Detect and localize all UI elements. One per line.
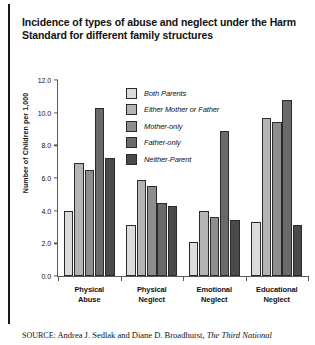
x-axis-category-line: Neglect [181, 295, 247, 305]
legend-swatch-icon [126, 88, 137, 99]
legend-swatch-icon [126, 137, 137, 148]
legend-item: Mother-only [126, 118, 246, 135]
bar [137, 180, 147, 276]
x-axis-category-line: Abuse [56, 295, 122, 305]
y-axis-tick-label: 12.0 [12, 77, 58, 84]
bar [157, 203, 167, 277]
x-axis-category-line: Physical [119, 285, 185, 295]
legend-item-label: Either Mother or Father [144, 105, 219, 114]
bar [74, 163, 84, 276]
legend-item-label: Neither-Parent [144, 155, 191, 164]
x-axis-tick-mark [183, 276, 184, 281]
bar [293, 225, 303, 276]
bar-group [246, 80, 309, 276]
legend-item: Both Parents [126, 85, 246, 102]
bar-group [58, 80, 121, 276]
bar [199, 211, 209, 276]
y-axis-tick-label: 10.0 [12, 109, 58, 116]
figure-left-rule [8, 4, 10, 324]
x-axis-category-line: Emotional [181, 285, 247, 295]
x-axis-category-line: Neglect [244, 295, 310, 305]
legend-swatch-icon [126, 104, 137, 115]
x-axis-tick-mark [246, 276, 247, 281]
y-axis-tick-label: 8.0 [12, 142, 58, 149]
bar [262, 118, 272, 276]
figure-container: Incidence of types of abuse and neglect … [0, 0, 315, 345]
bar [64, 211, 74, 276]
legend-item-label: Mother-only [144, 122, 182, 131]
y-axis-tick-label: 0.0 [12, 273, 58, 280]
source-note: SOURCE: Andrea J. Sedlak and Diane D. Br… [22, 330, 312, 340]
source-text: Andrea J. Sedlak and Diane D. Broadhurst… [57, 330, 204, 340]
bar [147, 186, 157, 276]
legend-item: Either Mother or Father [126, 102, 246, 119]
x-axis-tick-mark [121, 276, 122, 281]
x-axis-category-label: PhysicalAbuse [56, 285, 122, 304]
x-axis-tick-mark [58, 276, 59, 281]
x-axis-category-label: PhysicalNeglect [119, 285, 185, 304]
y-axis-label-wrap: Number of Children per 1,000 [26, 184, 40, 185]
x-axis-category-line: Physical [56, 285, 122, 295]
legend-swatch-icon [126, 154, 137, 165]
bar [168, 206, 178, 276]
bar [272, 122, 282, 276]
legend: Both ParentsEither Mother or FatherMothe… [126, 85, 246, 168]
bar [85, 170, 95, 276]
legend-item: Father-only [126, 135, 246, 152]
page-title: Incidence of types of abuse and neglect … [22, 16, 307, 42]
x-axis-category-line: Educational [244, 285, 310, 295]
x-axis-category-label: EducationalNeglect [244, 285, 310, 304]
source-label: SOURCE: [22, 331, 56, 340]
bar [251, 222, 261, 276]
source-title: The Third National [207, 330, 272, 340]
legend-swatch-icon [126, 121, 137, 132]
y-axis-tick-label: 6.0 [12, 175, 58, 182]
legend-item: Neither-Parent [126, 151, 246, 168]
x-axis-category-line: Neglect [119, 295, 185, 305]
bar [230, 220, 240, 276]
bar [282, 100, 292, 276]
x-axis-tick-mark [308, 276, 309, 281]
y-axis-tick-label: 2.0 [12, 240, 58, 247]
bar [126, 225, 136, 276]
bar [210, 217, 220, 276]
bar [189, 242, 199, 276]
legend-item-label: Father-only [144, 138, 181, 147]
y-axis-tick-label: 4.0 [12, 207, 58, 214]
bar [105, 158, 115, 276]
legend-item-label: Both Parents [144, 89, 186, 98]
x-axis-category-label: EmotionalNeglect [181, 285, 247, 304]
bar [95, 108, 105, 276]
